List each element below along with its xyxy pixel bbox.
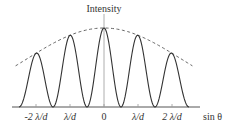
interference-chart: Intensity sin θ -2 λ/dλ/d0λ/d2 λ/d — [0, 0, 228, 123]
x-tick-label: λ/d — [63, 111, 77, 122]
y-axis-label: Intensity — [87, 3, 122, 14]
x-tick-label: -2 λ/d — [25, 111, 49, 122]
x-axis-label: sin θ — [203, 111, 222, 122]
x-tick-label: λ/d — [131, 111, 145, 122]
x-tick-label: 0 — [102, 111, 107, 122]
x-tick-label: 2 λ/d — [162, 111, 183, 122]
